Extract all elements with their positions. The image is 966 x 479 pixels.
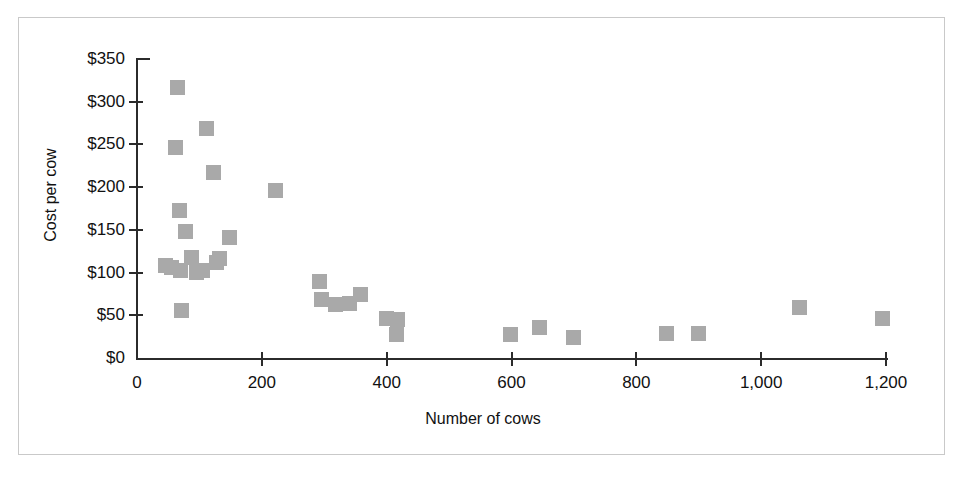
data-point [353,287,368,302]
data-point [566,330,581,345]
data-point [174,303,189,318]
y-tick-mark [129,101,143,103]
x-tick-mark [511,352,513,366]
x-axis-title: Number of cows [0,410,966,428]
x-tick-mark [635,352,637,366]
x-tick-mark [386,352,388,366]
y-tick-label: $200 [73,178,125,195]
y-tick-mark [129,314,143,316]
data-point [168,140,183,155]
data-point [792,300,807,315]
data-point [178,224,193,239]
data-point [503,327,518,342]
data-point [314,292,329,307]
data-point [173,263,188,278]
data-point [199,121,214,136]
y-tick-label: $250 [73,135,125,152]
x-tick-label: 600 [472,374,552,392]
data-point [170,80,185,95]
chart-figure: $0$50$100$150$200$250$300$350 0200400600… [0,0,966,479]
y-tick-mark [129,186,143,188]
y-tick-label: $150 [73,221,125,238]
data-point [212,251,227,266]
x-tick-label: 800 [596,374,676,392]
y-axis-title-container: Cost per cow [36,120,60,280]
y-tick-mark [129,143,143,145]
data-point [195,263,210,278]
y-tick-label: $300 [73,93,125,110]
data-point [691,326,706,341]
x-tick-label: 1,200 [846,374,926,392]
x-tick-mark [760,352,762,366]
x-tick-mark [885,352,887,366]
y-tick-label: $100 [73,264,125,281]
data-point [172,203,187,218]
data-point [659,326,674,341]
y-tick-label: $350 [73,50,125,67]
x-tick-mark [261,352,263,366]
y-tick-label: $50 [73,306,125,323]
y-tick-mark [129,229,143,231]
x-tick-label: 1,000 [721,374,801,392]
data-point [268,183,283,198]
x-tick-label: 0 [97,374,177,392]
data-point [206,165,221,180]
y-tick-mark [136,58,150,60]
data-point [875,311,890,326]
scatter-plot-area: $0$50$100$150$200$250$300$350 0200400600… [0,0,966,479]
data-point [390,312,405,327]
data-point [222,230,237,245]
data-point [532,320,547,335]
y-axis-title: Cost per cow [42,120,60,270]
x-tick-label: 400 [347,374,427,392]
x-tick-label: 200 [222,374,302,392]
data-point [312,274,327,289]
data-point [389,327,404,342]
y-tick-label: $0 [73,349,125,366]
y-tick-mark [129,272,143,274]
